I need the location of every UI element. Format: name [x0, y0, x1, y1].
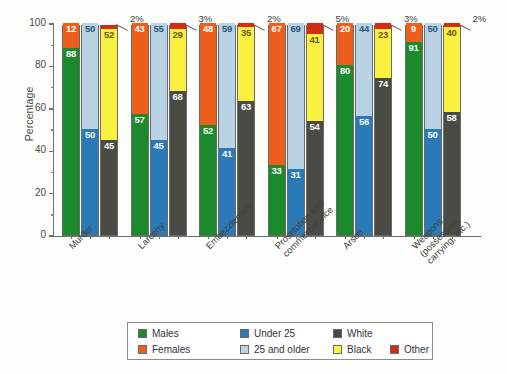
- stacked-bar-age[interactable]: 4555: [150, 25, 168, 236]
- stacked-bar-race[interactable]: 6829: [169, 25, 187, 236]
- legend-label: 25 and older: [254, 344, 310, 355]
- y-tick-label: 0: [40, 229, 46, 240]
- stacked-bar-race[interactable]: 5840: [443, 25, 461, 236]
- y-tick-label: 60: [35, 102, 46, 113]
- callout-text: 5%: [336, 13, 350, 24]
- legend-label: White: [347, 328, 373, 339]
- segment-value-label: 56: [356, 117, 372, 127]
- bar-segment-other: [170, 23, 186, 29]
- segment-value-label: 48: [200, 24, 216, 34]
- bar-segment-females: 43: [132, 23, 148, 114]
- bar-segment-black: 29: [170, 29, 186, 90]
- stacked-bar-sex[interactable]: 5743: [131, 25, 149, 236]
- segment-value-label: 80: [337, 66, 353, 76]
- segment-value-label: 50: [425, 24, 441, 34]
- stacked-bar-sex[interactable]: 5248: [199, 25, 217, 236]
- segment-value-label: 31: [288, 170, 304, 180]
- segment-value-label: 59: [219, 24, 235, 34]
- legend-swatch-over25: [240, 345, 249, 354]
- segment-value-label: 52: [200, 126, 216, 136]
- segment-value-label: 45: [151, 141, 167, 151]
- tick-mark: [49, 108, 54, 109]
- x-tick: [315, 235, 316, 239]
- segment-value-label: 41: [219, 149, 235, 159]
- bar-segment-over25: 50: [82, 23, 98, 129]
- segment-value-label: 45: [101, 141, 117, 151]
- legend-swatch-females: [138, 345, 147, 354]
- y-tick-label: 20: [35, 187, 46, 198]
- bar-segment-other: [307, 23, 323, 34]
- segment-value-label: 41: [307, 35, 323, 45]
- bar-segment-black: 40: [444, 27, 460, 112]
- plot-area: 0204060801008812505045525743455568295248…: [53, 25, 481, 237]
- legend-item-under25[interactable]: Under 25: [240, 328, 295, 339]
- other-percent-callout: 2%: [267, 13, 281, 24]
- legend-item-other[interactable]: Other: [390, 344, 429, 355]
- bar-segment-black: 41: [307, 34, 323, 121]
- bar-segment-black: 23: [375, 29, 391, 78]
- bar-segment-other: [444, 23, 460, 27]
- stacked-bar-age[interactable]: 3169: [287, 25, 305, 236]
- tick-mark: [49, 193, 54, 194]
- other-percent-callout: 5%: [336, 13, 350, 24]
- other-percent-callout: 2%: [130, 13, 144, 24]
- bar-segment-black: 35: [238, 27, 254, 101]
- tick-mark: [49, 23, 54, 24]
- x-tick: [178, 235, 179, 239]
- tick-mark: [49, 151, 54, 152]
- segment-value-label: 9: [406, 24, 422, 34]
- segment-value-label: 88: [63, 49, 79, 59]
- stacked-bar-sex[interactable]: 919: [405, 25, 423, 236]
- stacked-bar-sex[interactable]: 8812: [62, 25, 80, 236]
- bar-segment-females: 9: [406, 23, 422, 42]
- stacked-bar-age[interactable]: 5050: [81, 25, 99, 236]
- legend-item-males[interactable]: Males: [138, 328, 179, 339]
- bar-group: 574345556829: [131, 25, 187, 236]
- legend-swatch-males: [138, 329, 147, 338]
- tick-mark: [51, 172, 54, 173]
- callout-text: 3%: [404, 13, 418, 24]
- segment-value-label: 68: [170, 92, 186, 102]
- stacked-bar-race[interactable]: 7423: [374, 25, 392, 236]
- stacked-bar-race[interactable]: 4552: [100, 25, 118, 236]
- chart-legend: MalesFemalesUnder 2525 and olderWhiteBla…: [127, 322, 433, 360]
- legend-label: Other: [404, 344, 429, 355]
- other-percent-callout: 3%: [404, 13, 418, 24]
- segment-value-label: 23: [375, 30, 391, 40]
- y-tick-label: 40: [35, 144, 46, 155]
- segment-value-label: 69: [288, 24, 304, 34]
- legend-item-white[interactable]: White: [333, 328, 373, 339]
- stacked-bar-age[interactable]: 5050: [424, 25, 442, 236]
- segment-value-label: 50: [425, 130, 441, 140]
- segment-value-label: 54: [307, 122, 323, 132]
- stacked-bar-age[interactable]: 5644: [355, 25, 373, 236]
- legend-item-females[interactable]: Females: [138, 344, 190, 355]
- legend-label: Females: [152, 344, 190, 355]
- legend-item-black[interactable]: Black: [333, 344, 371, 355]
- legend-swatch-white: [333, 329, 342, 338]
- stacked-bar-sex[interactable]: 8020: [336, 25, 354, 236]
- bar-segment-under25: 50: [82, 129, 98, 235]
- bar-segment-females: 12: [63, 23, 79, 48]
- bar-segment-under25: 56: [356, 116, 372, 235]
- segment-value-label: 52: [101, 30, 117, 40]
- segment-value-label: 29: [170, 30, 186, 40]
- callout-text: 2%: [473, 13, 487, 24]
- segment-value-label: 33: [269, 166, 285, 176]
- segment-value-label: 67: [269, 24, 285, 34]
- y-tick-label: 80: [35, 59, 46, 70]
- stacked-bar-age[interactable]: 4159: [218, 25, 236, 236]
- segment-value-label: 74: [375, 79, 391, 89]
- bar-segment-white: 45: [101, 140, 117, 235]
- segment-value-label: 63: [238, 102, 254, 112]
- legend-label: Males: [152, 328, 179, 339]
- bar-segment-over25: 59: [219, 23, 235, 148]
- legend-item-over25[interactable]: 25 and older: [240, 344, 310, 355]
- stacked-bar-sex[interactable]: 3367: [268, 25, 286, 236]
- callout-text: 3%: [199, 13, 213, 24]
- legend-label: Black: [347, 344, 371, 355]
- bar-segment-over25: 55: [151, 23, 167, 140]
- bar-group: 802056447423: [336, 25, 392, 236]
- segment-value-label: 50: [82, 130, 98, 140]
- x-tick: [383, 235, 384, 239]
